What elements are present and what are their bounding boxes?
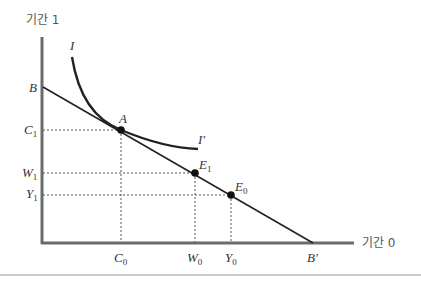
point-e0	[227, 191, 235, 199]
label-c1: C1	[24, 122, 37, 139]
label-e0: E0	[234, 179, 248, 196]
budget-line	[43, 87, 313, 243]
label-b: B	[29, 80, 37, 95]
label-w0: W0	[187, 250, 203, 267]
label-c0: C0	[114, 250, 128, 267]
label-w1: W1	[22, 165, 37, 182]
y-axis-label: 기간 1	[26, 13, 59, 27]
label-a: A	[118, 111, 127, 126]
label-y1: Y1	[26, 186, 38, 203]
x-axis-label: 기간 0	[362, 236, 395, 250]
point-e1	[191, 169, 199, 177]
indifference-curve	[72, 57, 198, 149]
curve-label-i-prime: I′	[197, 132, 205, 147]
label-y0: Y0	[225, 250, 237, 267]
intertemporal-choice-diagram: 기간 1 기간 0 I I′ A E1 E0 B C1 W1 Y1 C0 W0 …	[0, 0, 421, 283]
label-b-prime: B′	[307, 250, 318, 265]
point-a	[117, 126, 125, 134]
label-e1: E1	[198, 157, 211, 174]
curve-label-i: I	[69, 38, 75, 53]
